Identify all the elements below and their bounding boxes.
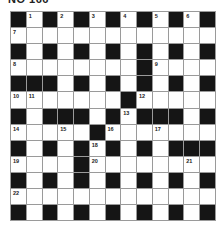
letter-cell[interactable] <box>27 28 43 44</box>
letter-cell[interactable]: 20 <box>90 157 106 173</box>
letter-cell[interactable] <box>90 205 106 221</box>
letter-cell[interactable] <box>27 141 43 157</box>
letter-cell[interactable] <box>27 189 43 205</box>
letter-cell[interactable] <box>169 125 185 141</box>
letter-cell[interactable]: 18 <box>90 141 106 157</box>
letter-cell[interactable] <box>74 189 90 205</box>
letter-cell[interactable]: 8 <box>11 60 27 76</box>
letter-cell[interactable] <box>153 205 169 221</box>
letter-cell[interactable] <box>58 44 74 60</box>
letter-cell[interactable] <box>58 76 74 92</box>
letter-cell[interactable] <box>58 141 74 157</box>
letter-cell[interactable]: 15 <box>58 125 74 141</box>
letter-cell[interactable] <box>27 157 43 173</box>
letter-cell[interactable]: 10 <box>11 92 27 108</box>
letter-cell[interactable] <box>90 28 106 44</box>
letter-cell[interactable] <box>121 125 137 141</box>
letter-cell[interactable] <box>184 205 200 221</box>
letter-cell[interactable] <box>153 141 169 157</box>
letter-cell[interactable]: 3 <box>90 12 106 28</box>
letter-cell[interactable] <box>90 189 106 205</box>
letter-cell[interactable] <box>169 157 185 173</box>
letter-cell[interactable] <box>153 157 169 173</box>
letter-cell[interactable] <box>90 173 106 189</box>
letter-cell[interactable] <box>121 60 137 76</box>
letter-cell[interactable] <box>137 28 153 44</box>
letter-cell[interactable]: 21 <box>184 157 200 173</box>
letter-cell[interactable] <box>169 28 185 44</box>
letter-cell[interactable] <box>137 189 153 205</box>
letter-cell[interactable] <box>121 189 137 205</box>
letter-cell[interactable] <box>121 173 137 189</box>
letter-cell[interactable] <box>184 44 200 60</box>
letter-cell[interactable] <box>43 125 59 141</box>
letter-cell[interactable] <box>200 125 216 141</box>
letter-cell[interactable]: 13 <box>121 109 137 125</box>
letter-cell[interactable] <box>90 60 106 76</box>
letter-cell[interactable] <box>90 44 106 60</box>
letter-cell[interactable] <box>184 125 200 141</box>
letter-cell[interactable] <box>153 76 169 92</box>
letter-cell[interactable] <box>153 28 169 44</box>
letter-cell[interactable] <box>169 60 185 76</box>
letter-cell[interactable] <box>137 125 153 141</box>
letter-cell[interactable] <box>43 60 59 76</box>
letter-cell[interactable] <box>121 141 137 157</box>
letter-cell[interactable] <box>121 205 137 221</box>
letter-cell[interactable] <box>106 157 122 173</box>
letter-cell[interactable] <box>106 28 122 44</box>
letter-cell[interactable] <box>58 173 74 189</box>
letter-cell[interactable] <box>58 189 74 205</box>
letter-cell[interactable]: 22 <box>11 189 27 205</box>
letter-cell[interactable] <box>74 92 90 108</box>
letter-cell[interactable] <box>27 109 43 125</box>
letter-cell[interactable]: 11 <box>27 92 43 108</box>
letter-cell[interactable] <box>184 60 200 76</box>
letter-cell[interactable] <box>200 92 216 108</box>
letter-cell[interactable] <box>74 125 90 141</box>
letter-cell[interactable] <box>184 28 200 44</box>
letter-cell[interactable] <box>169 189 185 205</box>
letter-cell[interactable] <box>153 44 169 60</box>
letter-cell[interactable] <box>90 109 106 125</box>
letter-cell[interactable] <box>121 44 137 60</box>
letter-cell[interactable] <box>121 76 137 92</box>
letter-cell[interactable] <box>121 157 137 173</box>
letter-cell[interactable] <box>184 189 200 205</box>
letter-cell[interactable] <box>200 60 216 76</box>
letter-cell[interactable] <box>27 125 43 141</box>
letter-cell[interactable] <box>200 189 216 205</box>
letter-cell[interactable] <box>90 92 106 108</box>
letter-cell[interactable]: 7 <box>11 28 27 44</box>
letter-cell[interactable] <box>153 189 169 205</box>
letter-cell[interactable] <box>106 60 122 76</box>
letter-cell[interactable] <box>74 60 90 76</box>
letter-cell[interactable] <box>74 28 90 44</box>
letter-cell[interactable] <box>27 60 43 76</box>
letter-cell[interactable] <box>200 157 216 173</box>
letter-cell[interactable]: 4 <box>121 12 137 28</box>
letter-cell[interactable]: 1 <box>27 12 43 28</box>
letter-cell[interactable] <box>43 28 59 44</box>
letter-cell[interactable] <box>43 92 59 108</box>
letter-cell[interactable]: 6 <box>184 12 200 28</box>
letter-cell[interactable] <box>169 92 185 108</box>
letter-cell[interactable] <box>58 157 74 173</box>
letter-cell[interactable] <box>153 173 169 189</box>
letter-cell[interactable] <box>106 92 122 108</box>
letter-cell[interactable] <box>90 76 106 92</box>
letter-cell[interactable]: 17 <box>153 125 169 141</box>
letter-cell[interactable] <box>200 28 216 44</box>
letter-cell[interactable] <box>184 76 200 92</box>
letter-cell[interactable]: 2 <box>58 12 74 28</box>
letter-cell[interactable]: 9 <box>153 60 169 76</box>
letter-cell[interactable] <box>58 28 74 44</box>
letter-cell[interactable] <box>184 173 200 189</box>
letter-cell[interactable] <box>58 92 74 108</box>
letter-cell[interactable] <box>27 44 43 60</box>
letter-cell[interactable] <box>106 189 122 205</box>
letter-cell[interactable]: 5 <box>153 12 169 28</box>
letter-cell[interactable] <box>184 109 200 125</box>
letter-cell[interactable] <box>43 157 59 173</box>
letter-cell[interactable] <box>58 60 74 76</box>
